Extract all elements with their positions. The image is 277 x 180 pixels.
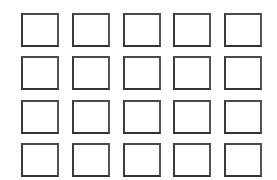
grid-cell[interactable] [224, 143, 262, 177]
grid-cell[interactable] [123, 56, 161, 90]
grid-cell[interactable] [173, 56, 211, 90]
grid-cell[interactable] [21, 13, 59, 47]
grid-cell[interactable] [72, 56, 110, 90]
grid-cell[interactable] [123, 13, 161, 47]
grid-canvas [0, 0, 277, 180]
grid-cell[interactable] [21, 56, 59, 90]
grid-cell[interactable] [173, 13, 211, 47]
grid-cell[interactable] [173, 100, 211, 134]
grid-cell[interactable] [173, 143, 211, 177]
grid-cell[interactable] [123, 143, 161, 177]
grid-cell[interactable] [123, 100, 161, 134]
square-grid [21, 13, 262, 177]
grid-cell[interactable] [224, 100, 262, 134]
grid-cell[interactable] [72, 100, 110, 134]
grid-cell[interactable] [72, 143, 110, 177]
grid-cell[interactable] [224, 13, 262, 47]
grid-cell[interactable] [21, 143, 59, 177]
grid-cell[interactable] [72, 13, 110, 47]
grid-cell[interactable] [21, 100, 59, 134]
grid-cell[interactable] [224, 56, 262, 90]
